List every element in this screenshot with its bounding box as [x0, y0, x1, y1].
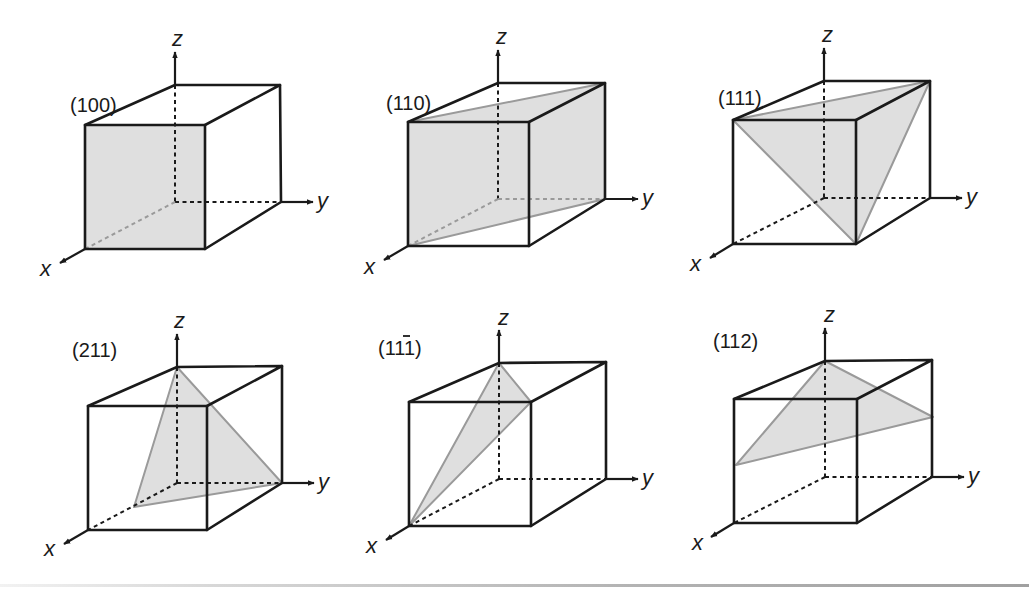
y-axis-label: y: [966, 463, 981, 488]
plane-label: (112): [713, 330, 758, 352]
z-axis-label: z: [823, 302, 835, 327]
x-axis-arrow: [386, 526, 409, 540]
x-axis-label: x: [689, 251, 702, 276]
x-axis-label: x: [691, 530, 704, 555]
panel-112: z y x (112): [691, 302, 981, 555]
plane-label: (110): [386, 92, 431, 114]
miller-planes-figure: z y x (100) z y x (110): [0, 0, 1029, 591]
x-axis-arrow: [711, 523, 734, 537]
x-axis-label: x: [363, 254, 376, 279]
panel-111: z y x (111): [689, 22, 979, 276]
panel-100: z y x (100): [39, 26, 330, 281]
z-axis-label: z: [495, 24, 507, 49]
z-axis-label: z: [171, 26, 183, 51]
x-axis-arrow: [384, 246, 408, 260]
panel-1-bar1-1: z y x (111): [365, 305, 655, 558]
panel-211: z y x (211): [43, 308, 331, 561]
z-axis-label: z: [821, 22, 833, 47]
y-axis-label: y: [964, 184, 979, 209]
plane-1-bar1-1: [409, 363, 531, 526]
x-axis-label: x: [39, 256, 52, 281]
y-axis-label: y: [640, 465, 655, 490]
x-axis-arrow: [60, 249, 85, 263]
plane-100: [85, 125, 205, 249]
label-part: 1: [404, 337, 415, 359]
x-axis-label: x: [43, 536, 56, 561]
label-part: ): [415, 337, 422, 359]
z-axis-label: z: [173, 308, 185, 333]
plane-112: [736, 361, 933, 465]
x-axis-label: x: [365, 533, 378, 558]
y-axis-label: y: [640, 185, 655, 210]
z-axis-label: z: [497, 305, 509, 330]
bottom-divider: [0, 584, 1029, 587]
x-axis-arrow: [64, 530, 88, 544]
plane-label: (211): [72, 339, 117, 361]
panel-110: z y x (110): [363, 24, 655, 279]
plane-label: (100): [70, 94, 117, 116]
plane-111: [733, 81, 930, 244]
y-axis-label: y: [316, 469, 331, 494]
plane-label: (111): [718, 87, 762, 109]
plane-label: (111): [378, 337, 422, 359]
x-axis-arrow: [710, 244, 733, 258]
y-axis-label: y: [315, 188, 330, 213]
